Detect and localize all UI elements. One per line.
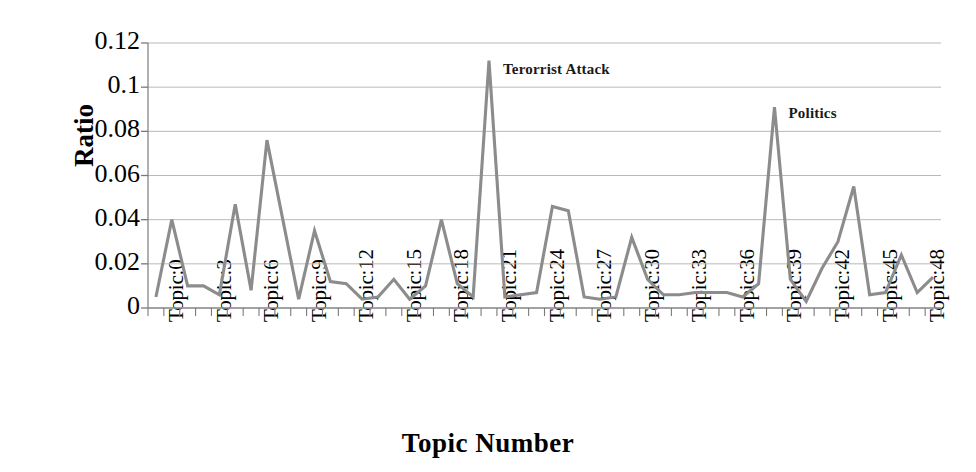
y-axis-ticks	[141, 43, 148, 308]
chart-figure: Ratio Topic Number 00.020.040.060.080.10…	[0, 0, 976, 472]
series-ratio-line	[156, 61, 933, 302]
x-axis-ticks	[148, 308, 941, 316]
data-series-line	[156, 61, 933, 302]
plot-area	[0, 0, 976, 472]
